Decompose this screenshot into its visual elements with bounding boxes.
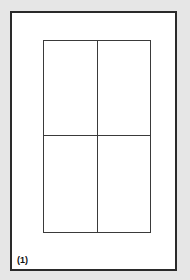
figure-label: (1) xyxy=(17,255,28,265)
vertical-divider xyxy=(97,41,98,232)
four-pane-grid xyxy=(43,40,151,233)
horizontal-divider xyxy=(44,135,150,136)
